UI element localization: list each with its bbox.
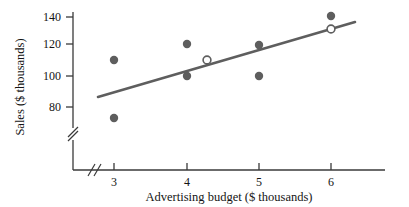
data-point (183, 72, 191, 80)
data-point (110, 114, 118, 122)
y-tick-label-80: 80 (49, 100, 61, 114)
scatter-plot-figure: 140 120 100 80 3 4 5 6 Advertising budge… (0, 0, 409, 207)
x-axis-title: Advertising budget ($ thousands) (146, 190, 313, 204)
x-tick-label-5: 5 (256, 175, 262, 189)
regression-line (98, 22, 355, 97)
predicted-point (203, 56, 211, 64)
predicted-point (327, 25, 335, 33)
y-tick-label-120: 120 (43, 37, 61, 51)
data-point (255, 41, 263, 49)
x-tick-label-6: 6 (328, 175, 334, 189)
data-point (255, 72, 263, 80)
y-tick-label-100: 100 (43, 69, 61, 83)
chart-canvas: 140 120 100 80 3 4 5 6 Advertising budge… (0, 0, 409, 207)
x-tick-label-3: 3 (111, 175, 117, 189)
data-point (110, 56, 118, 64)
y-axis-title: Sales ($ thousands) (13, 38, 27, 135)
data-point (183, 40, 191, 48)
x-tick-label-4: 4 (184, 175, 190, 189)
y-tick-label-140: 140 (43, 10, 61, 24)
data-point (327, 12, 335, 20)
